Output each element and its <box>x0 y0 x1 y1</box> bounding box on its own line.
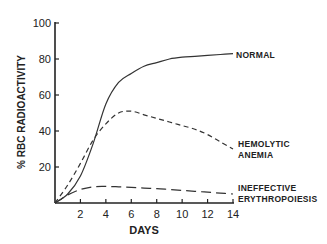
label-ineffective-line2: ERYTHROPOIESIS <box>238 194 317 204</box>
series-line-ineffective-erythropoiesis <box>55 186 233 203</box>
x-tick-label: 14 <box>227 208 239 220</box>
x-tick-label: 6 <box>128 208 134 220</box>
line-chart: 20406080100 2468101214 % RBC RADIOACTIVI… <box>0 0 327 244</box>
y-axis-title: % RBC RADIOACTIVITY <box>16 55 27 169</box>
x-tick-label: 8 <box>154 208 160 220</box>
label-ineffective-line1: INEFFECTIVE <box>238 183 297 193</box>
y-tick-label: 60 <box>39 89 51 101</box>
y-tick-label: 20 <box>39 161 51 173</box>
x-axis-title: DAYS <box>129 224 159 236</box>
x-tick-label: 10 <box>176 208 188 220</box>
y-tick-label: 80 <box>39 53 51 65</box>
label-hemolytic-line1: HEMOLYTIC <box>238 139 290 149</box>
x-tick-label: 12 <box>201 208 213 220</box>
axes <box>55 22 234 203</box>
label-normal: NORMAL <box>236 50 275 60</box>
series-lines <box>55 54 233 203</box>
x-ticks: 2468101214 <box>77 199 239 220</box>
label-hemolytic-line2: ANEMIA <box>238 150 273 160</box>
x-tick-label: 2 <box>77 208 83 220</box>
series-line-normal <box>55 54 233 203</box>
y-tick-label: 100 <box>33 17 51 29</box>
y-tick-label: 40 <box>39 125 51 137</box>
x-tick-label: 4 <box>103 208 109 220</box>
